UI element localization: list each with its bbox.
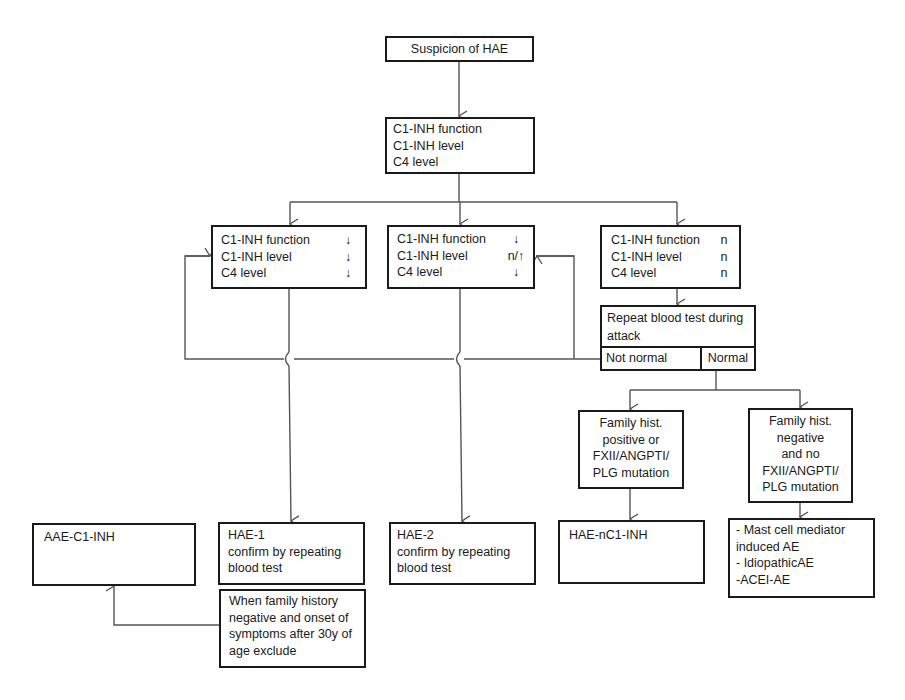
normal-label: Normal <box>708 351 748 365</box>
node-hae1: HAE-1 confirm by repeating blood test <box>218 522 365 585</box>
result-value: ↓ <box>339 232 357 249</box>
family-positive-line: FXII/ANGPTI/ <box>580 448 682 465</box>
result-label: C4 level <box>221 265 266 282</box>
family-negative-line: Family hist. <box>750 413 851 430</box>
result-row: C4 level n <box>611 265 733 282</box>
hae1-line: HAE-1 <box>228 527 363 544</box>
exclusion-line: symptoms after 30y of <box>229 626 364 643</box>
node-other-ae: - Mast cell mediator induced AE - Idiopa… <box>728 518 875 598</box>
result-label: C1-INH level <box>397 248 468 265</box>
result-value: n <box>715 232 733 249</box>
family-negative-line: FXII/ANGPTI/ <box>750 463 851 480</box>
result-label: C4 level <box>611 265 656 282</box>
result-value: ↓ <box>339 265 357 282</box>
family-negative-line: and no <box>750 446 851 463</box>
node-family-negative: Family hist. negative and no FXII/ANGPTI… <box>748 408 853 503</box>
tests-line: C1-INH level <box>393 138 533 155</box>
result-label: C1-INH level <box>221 249 292 266</box>
family-negative-line: PLG mutation <box>750 479 851 496</box>
hae-nc1-line: HAE-nC1-INH <box>569 527 703 544</box>
hae2-line: blood test <box>397 560 534 577</box>
aae-line: AAE-C1-INH <box>44 529 194 546</box>
node-suspicion-text: Suspicion of HAE <box>411 42 508 56</box>
result-label: C1-INH function <box>221 232 310 249</box>
edge-type2-to-hae2 <box>460 288 462 521</box>
tests-line: C1-INH function <box>393 121 533 138</box>
node-suspicion: Suspicion of HAE <box>385 36 534 62</box>
node-hae2: HAE-2 confirm by repeating blood test <box>389 522 536 585</box>
result-value: ↓ <box>339 249 357 266</box>
node-aae-c1-inh: AAE-C1-INH <box>32 523 196 586</box>
result-label: C1-INH function <box>611 232 700 249</box>
family-positive-line: PLG mutation <box>580 465 682 482</box>
result-row: C4 level ↓ <box>397 264 525 281</box>
edge-type1-to-hae1 <box>289 288 291 521</box>
exclusion-line: negative and onset of <box>229 610 364 627</box>
repeat-normal: Normal <box>700 346 756 371</box>
family-negative-line: negative <box>750 430 851 447</box>
tests-line: C4 level <box>393 154 533 171</box>
hae2-line: HAE-2 <box>397 527 534 544</box>
node-family-positive: Family hist. positive or FXII/ANGPTI/ PL… <box>578 410 684 489</box>
result-row: C1-INH function ↓ <box>397 231 525 248</box>
crossing-hop-left <box>286 352 290 366</box>
result-label: C4 level <box>397 264 442 281</box>
result-value: n <box>715 249 733 266</box>
result-value: n/↑ <box>507 248 525 265</box>
edge-exclusion-to-aae <box>114 586 219 625</box>
repeat-not-normal: Not normal <box>600 346 702 371</box>
other-ae-line: - IdiopathicAE <box>736 555 873 572</box>
result-row: C1-INH level n <box>611 249 733 266</box>
result-row: C1-INH level n/↑ <box>397 248 525 265</box>
hae1-line: blood test <box>228 560 363 577</box>
result-row: C1-INH function n <box>611 232 733 249</box>
node-result-type1: C1-INH function ↓ C1-INH level ↓ C4 leve… <box>211 225 367 289</box>
result-value: ↓ <box>507 231 525 248</box>
repeat-line: attack <box>607 327 754 345</box>
exclusion-line: age exclude <box>229 643 364 660</box>
crossing-hop-mid <box>457 352 461 366</box>
result-row: C1-INH function ↓ <box>221 232 357 249</box>
not-normal-label: Not normal <box>606 351 667 365</box>
other-ae-line: - Mast cell mediator <box>736 522 873 539</box>
other-ae-line: -ACEI-AE <box>736 572 873 589</box>
result-row: C1-INH level ↓ <box>221 249 357 266</box>
result-value: ↓ <box>507 264 525 281</box>
node-hae-nc1-inh: HAE-nC1-INH <box>558 520 705 584</box>
result-value: n <box>715 265 733 282</box>
repeat-line: Repeat blood test during <box>607 309 754 327</box>
result-label: C1-INH function <box>397 231 486 248</box>
family-positive-line: positive or <box>580 432 682 449</box>
node-initial-tests: C1-INH function C1-INH level C4 level <box>385 117 535 174</box>
hae2-line: confirm by repeating <box>397 544 534 561</box>
node-result-normal: C1-INH function n C1-INH level n C4 leve… <box>600 225 741 289</box>
result-label: C1-INH level <box>611 249 682 266</box>
node-repeat-test: Repeat blood test during attack <box>600 305 756 348</box>
other-ae-line: induced AE <box>736 539 873 556</box>
family-positive-line: Family hist. <box>580 415 682 432</box>
exclusion-line: When family history <box>229 593 364 610</box>
node-result-type2: C1-INH function ↓ C1-INH level n/↑ C4 le… <box>387 225 535 289</box>
hae1-line: confirm by repeating <box>228 544 363 561</box>
node-hae1-exclusion: When family history negative and onset o… <box>219 589 366 668</box>
result-row: C4 level ↓ <box>221 265 357 282</box>
